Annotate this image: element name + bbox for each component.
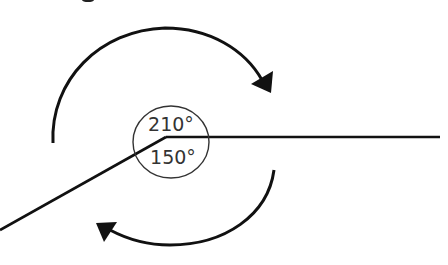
reflex-arrowhead-icon: [251, 71, 273, 93]
angle-diagram: 210° 150°: [0, 0, 448, 265]
reflex-angle-label: 210°: [148, 113, 194, 135]
slanted-ray: [0, 137, 166, 230]
cropped-fragment: [82, 0, 94, 2]
obtuse-arc: [110, 170, 274, 245]
obtuse-angle-label: 150°: [150, 146, 196, 168]
